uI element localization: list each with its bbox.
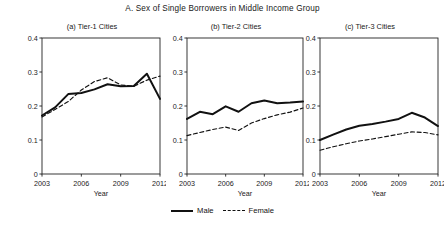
series-line-male xyxy=(187,101,303,119)
svg-text:0.4: 0.4 xyxy=(306,34,316,43)
legend-item-female: Female xyxy=(223,206,274,215)
svg-text:0.3: 0.3 xyxy=(173,68,183,77)
svg-text:0.1: 0.1 xyxy=(28,136,38,145)
solid-line-icon xyxy=(171,210,193,212)
series-line-male xyxy=(320,113,438,140)
dashed-line-icon xyxy=(223,210,245,211)
plot-frame xyxy=(320,38,438,174)
svg-text:2003: 2003 xyxy=(179,179,195,188)
svg-text:Year: Year xyxy=(372,189,387,198)
svg-text:Year: Year xyxy=(94,189,109,198)
legend-item-male: Male xyxy=(171,206,213,215)
legend-label-male: Male xyxy=(197,206,213,215)
panel-tier-2: (b) Tier-2 Cities 00.10.20.30.4200320062… xyxy=(163,22,309,202)
svg-text:0.2: 0.2 xyxy=(173,102,183,111)
svg-text:2009: 2009 xyxy=(256,179,272,188)
plot-area-tier-2: 00.10.20.30.42003200620092012Year xyxy=(163,22,309,202)
panel-tier-3: (c) Tier-3 Cities 00.10.20.30.4200320062… xyxy=(296,22,444,202)
panel-tier-1: (a) Tier-1 Cities 00.10.20.30.4200320062… xyxy=(18,22,166,202)
figure-container: A. Sex of Single Borrowers in Middle Inc… xyxy=(0,0,445,229)
svg-text:0.4: 0.4 xyxy=(173,34,183,43)
plot-frame xyxy=(187,38,303,174)
svg-text:2003: 2003 xyxy=(312,179,328,188)
svg-text:0: 0 xyxy=(312,170,316,179)
svg-text:2006: 2006 xyxy=(351,179,367,188)
plot-area-tier-1: 00.10.20.30.42003200620092012Year xyxy=(18,22,166,202)
svg-text:2006: 2006 xyxy=(218,179,234,188)
svg-text:0.3: 0.3 xyxy=(306,68,316,77)
series-line-female xyxy=(42,76,160,117)
figure-title: A. Sex of Single Borrowers in Middle Inc… xyxy=(0,4,445,13)
svg-text:0.4: 0.4 xyxy=(28,34,38,43)
svg-text:2009: 2009 xyxy=(391,179,407,188)
svg-text:2009: 2009 xyxy=(113,179,129,188)
svg-text:Year: Year xyxy=(238,189,253,198)
series-line-female xyxy=(320,132,438,150)
svg-text:0: 0 xyxy=(179,170,183,179)
svg-text:0.3: 0.3 xyxy=(28,68,38,77)
svg-text:2003: 2003 xyxy=(34,179,50,188)
svg-text:2006: 2006 xyxy=(73,179,89,188)
legend-label-female: Female xyxy=(249,206,274,215)
svg-text:0.1: 0.1 xyxy=(173,136,183,145)
plot-area-tier-3: 00.10.20.30.42003200620092012Year xyxy=(296,22,444,202)
svg-text:0.2: 0.2 xyxy=(306,102,316,111)
svg-text:0.2: 0.2 xyxy=(28,102,38,111)
svg-text:2012: 2012 xyxy=(430,179,444,188)
svg-text:0.1: 0.1 xyxy=(306,136,316,145)
chart-legend: Male Female xyxy=(0,206,445,215)
svg-text:0: 0 xyxy=(34,170,38,179)
